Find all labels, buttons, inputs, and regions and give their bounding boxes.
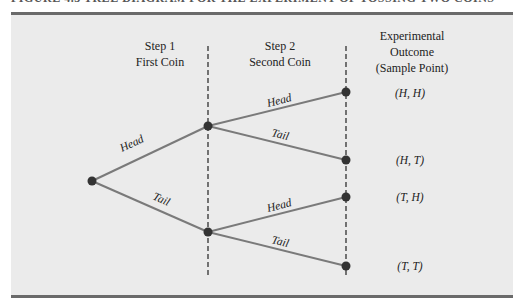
label-first-tail: Tail [151,190,172,208]
header-step2-subtitle: Second Coin [249,55,311,69]
node-tt [342,262,351,271]
outcome-ht: (H, T) [396,154,424,167]
header-step2-title: Step 2 [265,39,295,53]
branch-first-tail [92,181,208,232]
node-hh [342,88,351,97]
tree-diagram: Step 1 First Coin Step 2 Second Coin Exp… [0,0,531,302]
node-first-head [204,122,213,131]
header-outcome-line2: Outcome [390,45,434,59]
label-ht: Tail [271,126,291,142]
branch-first-head [92,126,208,181]
node-th [342,193,351,202]
label-tt: Tail [271,233,291,249]
label-first-head: Head [117,132,146,154]
outcome-hh: (H, H) [395,87,425,100]
header-outcome-line3: (Sample Point) [376,61,448,75]
header-outcome-line1: Experimental [380,29,445,43]
outcome-tt: (T, T) [397,260,423,273]
node-root [88,177,97,186]
header-step1-title: Step 1 [145,39,175,53]
node-ht [342,156,351,165]
node-first-tail [204,228,213,237]
header-step1-subtitle: First Coin [136,55,184,69]
outcome-th: (T, H) [396,191,423,204]
